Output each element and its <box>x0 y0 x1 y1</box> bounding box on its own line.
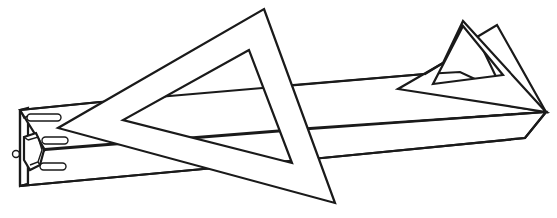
drawing-svg <box>0 0 557 218</box>
ring-icon <box>13 151 20 158</box>
line-drawing-figure: Line drawing of a long rectangular beam … <box>0 0 557 218</box>
